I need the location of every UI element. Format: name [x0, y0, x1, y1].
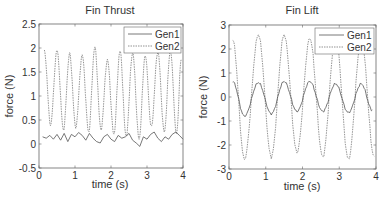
x-tick-label: 1: [263, 171, 269, 182]
y-tick-label: 0: [30, 139, 36, 150]
thrust-x-label: time (s): [92, 178, 129, 190]
x-tick-label: 0: [36, 170, 42, 181]
x-tick-label: 4: [373, 171, 379, 182]
y-tick-label: 1.5: [22, 67, 36, 78]
lift-y-label: force (N): [197, 76, 209, 119]
lift-title: Fin Lift: [285, 4, 318, 16]
thrust-title: Fin Thrust: [85, 4, 134, 16]
lift-x-label: time (s): [284, 180, 321, 192]
thrust-chart: Fin Thrust -0.500.511.522.5 01234 time (…: [3, 4, 186, 190]
y-tick-label: 3: [220, 20, 226, 31]
y-tick-label: 2: [220, 44, 226, 55]
y-tick-label: 0: [220, 92, 226, 103]
thrust-gen2-line: [44, 47, 181, 139]
y-tick-label: 2.5: [22, 19, 36, 30]
lift-chart: Fin Lift -3-2-10123 01234 time (s) force…: [197, 4, 379, 192]
lift-legend-gen1: Gen1: [347, 30, 372, 41]
lift-legend-gen2: Gen2: [347, 42, 372, 53]
thrust-legend-gen2: Gen2: [155, 41, 180, 52]
x-tick-label: 3: [144, 170, 150, 181]
thrust-legend: Gen1 Gen2: [124, 27, 181, 53]
x-tick-label: 3: [336, 171, 342, 182]
x-tick-label: 1: [72, 170, 78, 181]
thrust-gen1-line: [43, 132, 183, 146]
thrust-legend-gen1: Gen1: [155, 29, 180, 40]
x-tick-label: 0: [226, 171, 232, 182]
y-tick-label: -2: [217, 140, 226, 151]
y-tick-label: -0.5: [19, 163, 37, 174]
y-tick-label: 0.5: [22, 115, 36, 126]
x-tick-label: 4: [180, 170, 186, 181]
y-tick-label: -1: [217, 116, 226, 127]
y-tick-label: 2: [30, 43, 36, 54]
y-tick-label: -3: [217, 164, 226, 175]
y-tick-label: 1: [220, 68, 226, 79]
figure: Fin Thrust -0.500.511.522.5 01234 time (…: [0, 0, 386, 205]
thrust-y-label: force (N): [3, 75, 15, 118]
y-tick-label: 1: [30, 91, 36, 102]
lift-legend: Gen1 Gen2: [315, 28, 374, 54]
